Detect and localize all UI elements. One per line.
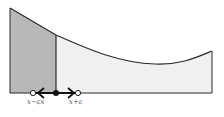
light-region <box>56 35 212 93</box>
left-open-point <box>30 90 35 95</box>
center-point <box>53 90 59 96</box>
right-point-label: x+ε <box>69 98 83 106</box>
right-open-point <box>75 90 80 95</box>
left-point-label: x−εx <box>27 98 45 106</box>
shaded-region <box>10 8 56 93</box>
